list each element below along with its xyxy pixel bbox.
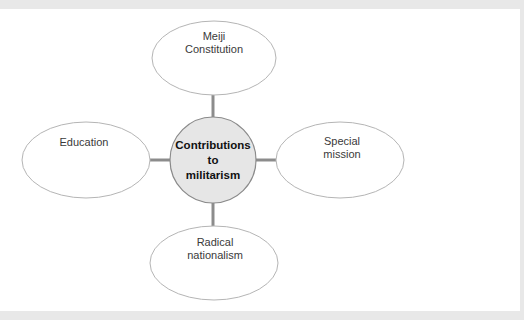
node-right-line-1: Special bbox=[287, 135, 397, 148]
node-bottom-line-1: Radical bbox=[160, 236, 270, 249]
node-label-bottom: Radical nationalism bbox=[160, 236, 270, 262]
center-label: Contributions to militarism bbox=[168, 138, 258, 183]
node-top-line-1: Meiji bbox=[159, 30, 269, 43]
node-label-right: Special mission bbox=[287, 135, 397, 161]
node-label-left: Education bbox=[29, 136, 139, 149]
center-line-1: Contributions bbox=[168, 138, 258, 153]
center-line-2: to bbox=[168, 153, 258, 168]
node-right-line-2: mission bbox=[287, 148, 397, 161]
node-left-line-1: Education bbox=[29, 136, 139, 149]
node-ellipse-left bbox=[22, 122, 150, 198]
node-top-line-2: Constitution bbox=[159, 43, 269, 56]
node-label-top: Meiji Constitution bbox=[159, 30, 269, 56]
center-line-3: militarism bbox=[168, 168, 258, 183]
node-bottom-line-2: nationalism bbox=[160, 249, 270, 262]
